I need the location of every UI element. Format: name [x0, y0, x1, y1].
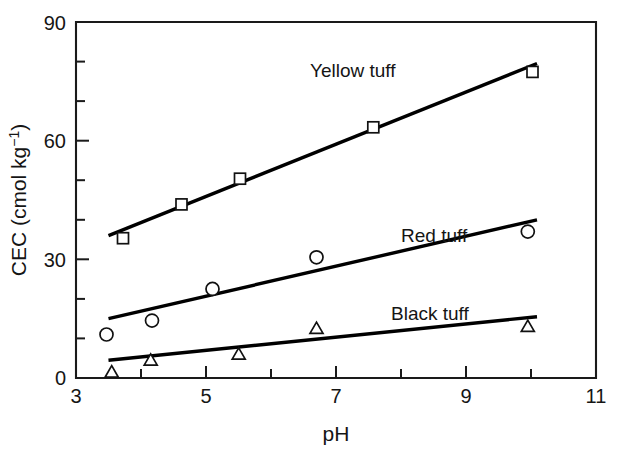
data-point [206, 282, 219, 295]
x-tick-label-5: 5 [200, 385, 211, 407]
y-axis-title-tail: ) [7, 124, 30, 131]
series-label-black-tuff: Black tuff [391, 303, 470, 324]
x-tick-label-9: 9 [460, 385, 471, 407]
data-point [527, 66, 538, 77]
y-tick-label-90: 90 [44, 12, 66, 34]
data-point [100, 328, 113, 341]
y-axis-title-superscript: −1 [6, 131, 22, 147]
data-point [521, 225, 534, 238]
cec-vs-ph-scatter-chart: 0 30 60 90 3 5 7 9 11 pH CEC (cmol kg−1)… [0, 0, 620, 456]
data-point [310, 251, 323, 264]
data-point [235, 173, 246, 184]
x-tick-label-7: 7 [330, 385, 341, 407]
data-point [146, 314, 159, 327]
data-point [118, 233, 129, 244]
y-tick-label-0: 0 [55, 367, 66, 389]
y-axis-title-base: CEC (cmol kg [7, 147, 30, 277]
series-label-yellow-tuff: Yellow tuff [310, 60, 396, 81]
data-point [176, 199, 187, 210]
y-tick-label-60: 60 [44, 130, 66, 152]
y-tick-label-30: 30 [44, 249, 66, 271]
series-label-red-tuff: Red tuff [401, 225, 468, 246]
x-tick-label-11: 11 [586, 385, 607, 407]
data-point [368, 122, 379, 133]
x-tick-label-3: 3 [70, 385, 81, 407]
x-axis-title: pH [323, 422, 350, 445]
